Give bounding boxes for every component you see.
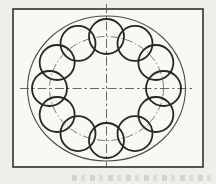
- bearing-circle-pattern-drawing: [0, 0, 216, 184]
- cropped-caption-remnant: [72, 175, 216, 181]
- frame-border: [13, 9, 203, 167]
- scanned-textbook-page: [0, 0, 216, 184]
